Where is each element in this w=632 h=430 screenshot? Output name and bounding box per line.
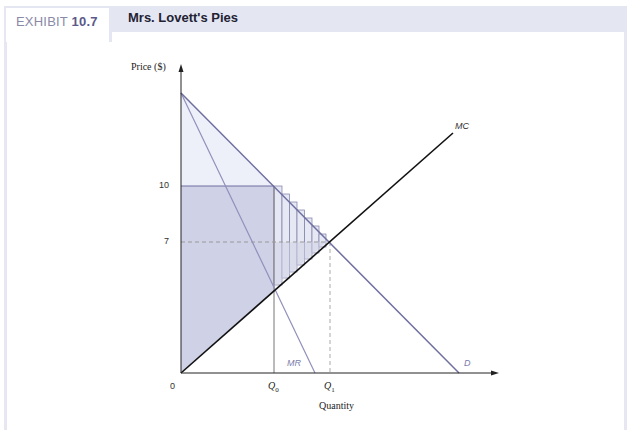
- mc-label: MC: [455, 121, 469, 131]
- x-tick-q1: Q1: [324, 380, 335, 394]
- x-axis-arrow-icon: [491, 371, 499, 376]
- y-axis-title: Price ($): [131, 61, 166, 72]
- x-tick-q0-sub: 0: [275, 386, 279, 394]
- x-axis-title: Quantity: [319, 400, 354, 411]
- y-tick-10: 10: [159, 180, 169, 190]
- producer-surplus-area: [181, 186, 274, 373]
- y-axis-arrow-icon: [179, 64, 184, 72]
- x-tick-q1-sub: 1: [331, 386, 335, 394]
- demand-label: D: [464, 358, 471, 368]
- origin-label: 0: [170, 381, 175, 391]
- y-tick-7: 7: [164, 236, 169, 246]
- economics-diagram: [0, 0, 632, 430]
- mr-label: MR: [287, 358, 301, 368]
- x-tick-q0: Q0: [268, 380, 279, 394]
